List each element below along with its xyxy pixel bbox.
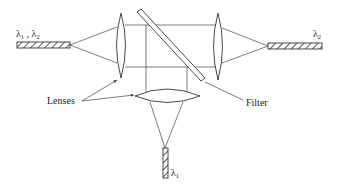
bottom-lens [135,89,200,103]
right-output-cone [222,28,268,63]
lenses-arrows [82,80,134,101]
input-beam-cone [70,27,117,63]
bottom-output-fiber [163,148,168,178]
input-fiber [17,42,70,48]
right-fiber-label: λ2 [313,28,321,40]
bottom-fiber-label: λ1 [171,167,179,179]
bottom-output-cone [150,102,183,148]
right-lens [214,13,223,80]
input-fiber-label: λ1 , λ2 [16,28,40,40]
demultiplexer-diagram: λ1 , λ2 λ2 λ1 [0,0,342,190]
filter-label: Filter [246,97,268,108]
left-lens [117,13,126,78]
filter [137,9,205,81]
right-output-fiber [268,43,322,49]
filter-leader-line [205,82,243,100]
lenses-label: Lenses [47,95,75,106]
